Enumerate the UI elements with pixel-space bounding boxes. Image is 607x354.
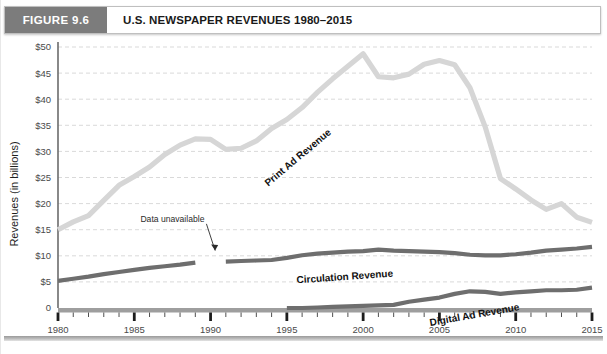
svg-text:$40: $40 xyxy=(35,94,51,105)
svg-text:0: 0 xyxy=(46,302,51,313)
series-label-print-ad-revenue: Print Ad Revenue xyxy=(262,126,333,188)
svg-text:1990: 1990 xyxy=(200,324,221,334)
svg-text:$25: $25 xyxy=(35,172,51,183)
svg-text:$30: $30 xyxy=(35,146,51,157)
svg-text:2010: 2010 xyxy=(505,324,526,334)
series-labels: Print Ad RevenueCirculation RevenueDigit… xyxy=(262,126,520,328)
svg-text:$10: $10 xyxy=(35,250,51,261)
svg-text:2015: 2015 xyxy=(581,324,602,334)
data-unavailable-note: Data unavailable xyxy=(140,214,204,224)
svg-text:1985: 1985 xyxy=(124,324,145,334)
figure-number-badge: FIGURE 9.6 xyxy=(5,7,107,33)
svg-text:$20: $20 xyxy=(35,198,51,209)
series-lines xyxy=(58,54,592,308)
chart-container: 0$5$10$15$20$25$30$35$40$45$501980198519… xyxy=(0,34,607,334)
series-label-circulation-revenue: Circulation Revenue xyxy=(296,268,394,286)
page-title: U.S. NEWSPAPER REVENUES 1980–2015 xyxy=(107,7,600,33)
line-chart: 0$5$10$15$20$25$30$35$40$45$501980198519… xyxy=(0,34,607,334)
annotations: Data unavailable xyxy=(140,214,218,251)
svg-text:1980: 1980 xyxy=(47,324,68,334)
svg-text:$50: $50 xyxy=(35,41,51,52)
y-axis-title: Revenues (in billions) xyxy=(8,141,20,246)
svg-text:$5: $5 xyxy=(40,276,51,287)
svg-text:1995: 1995 xyxy=(276,324,297,334)
svg-text:2000: 2000 xyxy=(353,324,374,334)
bottom-divider xyxy=(4,336,603,341)
svg-text:$35: $35 xyxy=(35,120,51,131)
figure-page: FIGURE 9.6 U.S. NEWSPAPER REVENUES 1980–… xyxy=(0,0,607,354)
svg-text:$45: $45 xyxy=(35,68,51,79)
svg-text:$15: $15 xyxy=(35,224,51,235)
figure-header: FIGURE 9.6 U.S. NEWSPAPER REVENUES 1980–… xyxy=(4,6,601,34)
